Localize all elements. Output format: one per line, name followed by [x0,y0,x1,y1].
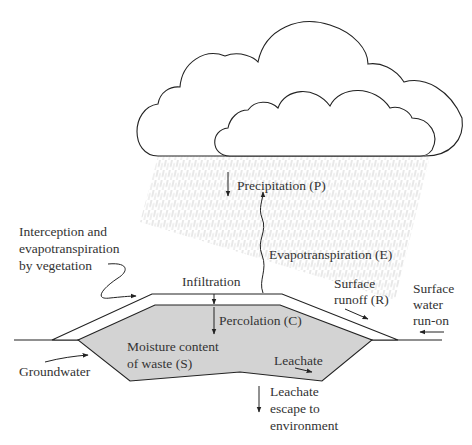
interception-label-2: evapotranspiration [19,241,119,257]
surface-runon-label-3: run-on [413,313,449,329]
leachate-label: Leachate [274,353,323,369]
cloud-icon [137,22,462,156]
interception-label-1: Interception and [19,224,107,240]
surface-runoff-label-1: Surface [334,276,375,292]
leachate-escape-label-1: Leachate [270,384,319,400]
groundwater-label: Groundwater [19,364,90,380]
surface-runoff-label-2: runoff (R) [334,292,389,308]
leachate-escape-label-2: escape to [270,401,320,417]
evapotranspiration-label: Evapotranspiration (E) [269,247,392,263]
interception-label-3: by vegetation [19,258,92,274]
moisture-label-1: Moisture content [127,339,219,355]
percolation-label: Percolation (C) [219,313,302,329]
infiltration-label: Infiltration [182,274,240,290]
surface-runon-label-2: water [413,297,443,313]
leachate-escape-label-3: environment [270,418,338,434]
precipitation-label: Precipitation (P) [237,178,326,194]
surface-runon-label-1: Surface [413,281,454,297]
moisture-label-2: of waste (S) [127,356,192,372]
